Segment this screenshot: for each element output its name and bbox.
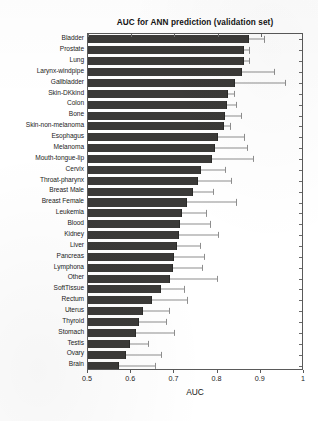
right-axis-tick (299, 246, 302, 247)
right-axis-tick (299, 116, 302, 117)
bar (88, 198, 187, 206)
error-bar-cap (249, 58, 250, 64)
bar (88, 264, 173, 272)
bar-row (88, 253, 302, 261)
bar (88, 35, 249, 43)
right-axis-tick (299, 170, 302, 171)
bar-row (88, 68, 302, 76)
right-axis-tick (299, 181, 302, 182)
y-tick-label: Stomach (0, 328, 84, 335)
bar-row (88, 133, 302, 141)
right-axis-tick (299, 366, 302, 367)
y-tick-label: Leukemia (0, 208, 84, 215)
bar (88, 275, 170, 283)
top-axis-tick (261, 34, 262, 37)
bar-row (88, 57, 302, 65)
y-tick-label: Esophagus (0, 132, 84, 139)
error-bar-cap (234, 91, 235, 97)
error-bar-cap (218, 232, 219, 238)
bar-row (88, 329, 302, 337)
error-bar-cap (204, 254, 205, 260)
y-tick-label: Larynx-windpipe (0, 67, 84, 74)
bar-row (88, 296, 302, 304)
error-bar-cap (217, 275, 218, 281)
bar-row (88, 264, 302, 272)
right-axis-tick (299, 148, 302, 149)
bar-row (88, 351, 302, 359)
right-axis-tick (299, 72, 302, 73)
right-axis-tick (299, 224, 302, 225)
error-bar-line (249, 39, 265, 40)
error-bar-cap (200, 243, 201, 249)
error-bar-cap (244, 134, 245, 140)
error-bar-cap (187, 297, 188, 303)
right-axis-tick (299, 94, 302, 95)
y-tick-label: Rectum (0, 295, 84, 302)
bar (88, 57, 244, 65)
bar-row (88, 242, 302, 250)
error-bar-line (119, 365, 155, 366)
right-axis-tick (299, 192, 302, 193)
right-axis-tick (299, 355, 302, 356)
error-bar-line (182, 213, 205, 214)
error-bar-cap (210, 221, 211, 227)
error-bar-cap (236, 199, 237, 205)
right-axis-tick (299, 333, 302, 334)
bar (88, 318, 139, 326)
top-axis-tick (174, 34, 175, 37)
bar-row (88, 177, 302, 185)
error-bar-line (218, 137, 245, 138)
x-tick-mark (260, 370, 261, 373)
plot-area (87, 33, 303, 370)
right-axis-tick (299, 50, 302, 51)
y-tick-label: Gallbladder (0, 78, 84, 85)
error-bar-line (193, 191, 214, 192)
x-tick-mark (217, 370, 218, 373)
error-bar-line (225, 115, 241, 116)
auc-bar-chart-figure: AUC for ANN prediction (validation set) … (0, 0, 318, 421)
x-axis-title: AUC (87, 387, 303, 397)
error-bar-cap (202, 265, 203, 271)
error-bar-line (143, 311, 169, 312)
error-bar-cap (231, 178, 232, 184)
x-tick-label: 0.7 (168, 374, 178, 383)
bar-row (88, 285, 302, 293)
error-bar-line (136, 332, 174, 333)
bar-row (88, 46, 302, 54)
x-axis-ticks: 0.50.60.70.80.91 (87, 370, 303, 386)
y-tick-label: Thyroid (0, 317, 84, 324)
right-axis-tick (299, 289, 302, 290)
y-tick-label: Lymphona (0, 263, 84, 270)
bar-row (88, 144, 302, 152)
right-axis-tick (299, 257, 302, 258)
error-bar-line (242, 72, 274, 73)
bar-row (88, 198, 302, 206)
y-tick-label: SoftTissue (0, 284, 84, 291)
bar-row (88, 220, 302, 228)
y-tick-label: Liver (0, 241, 84, 248)
bar-row (88, 35, 302, 43)
right-axis-tick (299, 311, 302, 312)
y-tick-label: Ovary (0, 349, 84, 356)
chart-title: AUC for ANN prediction (validation set) (87, 18, 303, 27)
y-tick-label: Pancreas (0, 252, 84, 259)
error-bar-cap (241, 112, 242, 118)
right-axis-tick (299, 300, 302, 301)
x-tick-mark (130, 370, 131, 373)
y-tick-label: Brain (0, 360, 84, 367)
x-tick-label: 0.5 (82, 374, 92, 383)
y-tick-label: Cervix (0, 165, 84, 172)
y-tick-label: Bone (0, 110, 84, 117)
x-tick-mark (87, 370, 88, 373)
bar (88, 101, 227, 109)
right-axis-tick (299, 279, 302, 280)
bar (88, 177, 198, 185)
bar-row (88, 155, 302, 163)
y-tick-label: Skin-non-melanoma (0, 121, 84, 128)
right-axis-tick (299, 322, 302, 323)
y-tick-label: Melanoma (0, 143, 84, 150)
error-bar-line (177, 245, 201, 246)
y-tick-label: Mouth-tongue-lip (0, 154, 84, 161)
bar (88, 188, 193, 196)
error-bar-line (130, 343, 148, 344)
